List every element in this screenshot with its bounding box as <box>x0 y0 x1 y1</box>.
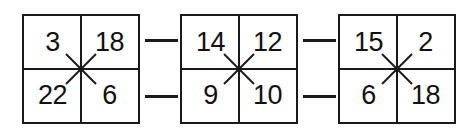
cell-value: 3 <box>45 29 60 56</box>
grid-cell-top-left: 14 <box>182 16 239 69</box>
grid-box-3: 15 2 6 18 <box>338 14 456 124</box>
connector-top-box1-box2 <box>145 39 178 42</box>
cell-value: 9 <box>203 82 218 109</box>
cell-value: 15 <box>354 29 383 56</box>
connector-top-box2-box3 <box>303 39 336 42</box>
cell-value: 6 <box>361 82 376 109</box>
grid-box-2: 14 12 9 10 <box>180 14 298 124</box>
connector-bottom-box2-box3 <box>303 95 336 98</box>
cell-value: 12 <box>253 29 282 56</box>
grid-cell-top-right: 2 <box>397 16 454 69</box>
grid-cell-bottom-left: 6 <box>340 69 397 122</box>
cell-value: 18 <box>411 82 440 109</box>
connector-bottom-box1-box2 <box>145 95 178 98</box>
cell-value: 2 <box>418 29 433 56</box>
cell-value: 14 <box>196 29 225 56</box>
cell-value: 22 <box>38 82 67 109</box>
grid-cell-bottom-right: 10 <box>239 69 296 122</box>
grid-cell-bottom-right: 18 <box>397 69 454 122</box>
grid-cell-bottom-right: 6 <box>81 69 138 122</box>
grid-box-1: 3 18 22 6 <box>22 14 140 124</box>
puzzle-diagram: 3 18 22 6 14 12 9 <box>0 0 470 138</box>
grid-cell-top-left: 15 <box>340 16 397 69</box>
grid-cell-top-right: 12 <box>239 16 296 69</box>
cell-value: 6 <box>102 82 117 109</box>
grid-cell-top-left: 3 <box>24 16 81 69</box>
grid-cell-bottom-left: 22 <box>24 69 81 122</box>
cell-value: 10 <box>253 82 282 109</box>
grid-cell-top-right: 18 <box>81 16 138 69</box>
grid-cell-bottom-left: 9 <box>182 69 239 122</box>
cell-value: 18 <box>95 29 124 56</box>
